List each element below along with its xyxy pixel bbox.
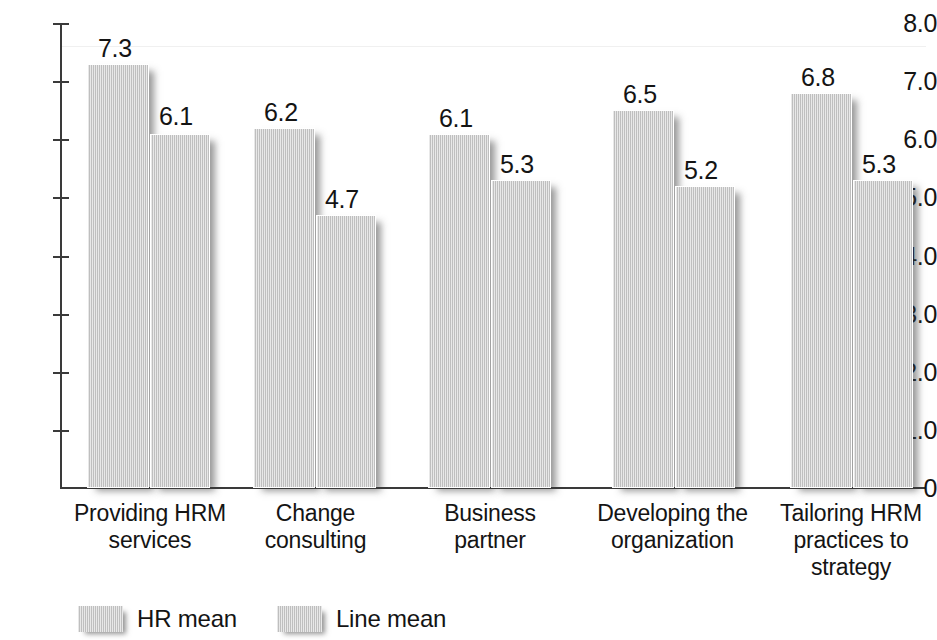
legend-swatch-icon-hr-mean: [78, 606, 123, 632]
legend-swatch-icon-line-mean: [277, 606, 322, 632]
y-tick-4: [53, 256, 69, 258]
y-tick-label-7: 7.0: [885, 69, 937, 94]
chart-legend: HR mean Line mean: [78, 606, 472, 632]
bar-line-mean-1: [150, 134, 210, 488]
bar-line-mean-3: [491, 180, 551, 488]
category-label-5-line-1: Tailoring HRM: [765, 500, 937, 527]
category-label-1-line-2: services: [60, 527, 240, 554]
category-label-5: Tailoring HRM practices to strategy: [765, 500, 937, 581]
y-tick-8: [53, 23, 69, 25]
plot-area: 8.0 7.0 6.0 5.0 4.0 3.0 2.0 1.0 0 7.3 6.…: [0, 0, 937, 500]
legend-label-hr-mean: HR mean: [137, 607, 237, 631]
category-label-4-line-1: Developing the: [580, 500, 765, 527]
bar-line-mean-2: [316, 215, 376, 488]
y-tick-3: [53, 314, 69, 316]
bar-value-line-mean-3: 5.3: [500, 152, 534, 177]
y-tick-label-6: 6.0: [885, 127, 937, 152]
y-tick-1: [53, 430, 69, 432]
bar-hr-mean-2: [253, 128, 315, 488]
category-label-3-line-2: partner: [414, 527, 566, 554]
bar-value-line-mean-4: 5.2: [684, 158, 718, 183]
bar-line-mean-5: [853, 180, 913, 488]
bar-value-hr-mean-3: 6.1: [439, 106, 473, 131]
category-label-3-line-1: Business: [414, 500, 566, 527]
category-label-2-line-2: consulting: [238, 527, 393, 554]
y-tick-5: [53, 197, 69, 199]
y-tick-2: [53, 372, 69, 374]
category-label-2: Change consulting: [238, 500, 393, 554]
y-tick-label-8: 8.0: [885, 11, 937, 36]
category-label-4-line-2: organization: [580, 527, 765, 554]
bar-value-line-mean-2: 4.7: [325, 187, 359, 212]
bar-value-hr-mean-5: 6.8: [801, 65, 835, 90]
bar-hr-mean-4: [612, 110, 674, 488]
scan-artifact-line: [62, 46, 926, 47]
bar-value-hr-mean-4: 6.5: [623, 82, 657, 107]
category-label-5-line-2: practices to: [765, 527, 937, 554]
category-label-5-line-3: strategy: [765, 554, 937, 581]
category-label-1: Providing HRM services: [60, 500, 240, 554]
y-tick-7: [53, 81, 69, 83]
legend-item-line-mean: Line mean: [277, 606, 446, 632]
bar-value-line-mean-1: 6.1: [159, 104, 193, 129]
bar-value-hr-mean-1: 7.3: [98, 36, 132, 61]
legend-item-hr-mean: HR mean: [78, 606, 237, 632]
bar-hr-mean-5: [790, 93, 852, 488]
bar-hr-mean-1: [87, 64, 149, 488]
bar-hr-mean-3: [428, 134, 490, 488]
y-tick-6: [53, 139, 69, 141]
bar-value-hr-mean-2: 6.2: [264, 100, 298, 125]
bar-line-mean-4: [675, 186, 735, 488]
category-label-1-line-1: Providing HRM: [60, 500, 240, 527]
category-label-3: Business partner: [414, 500, 566, 554]
bar-chart: 8.0 7.0 6.0 5.0 4.0 3.0 2.0 1.0 0 7.3 6.…: [0, 0, 937, 640]
legend-label-line-mean: Line mean: [336, 607, 446, 631]
category-label-4: Developing the organization: [580, 500, 765, 554]
category-label-2-line-1: Change: [238, 500, 393, 527]
bar-value-line-mean-5: 5.3: [862, 152, 896, 177]
